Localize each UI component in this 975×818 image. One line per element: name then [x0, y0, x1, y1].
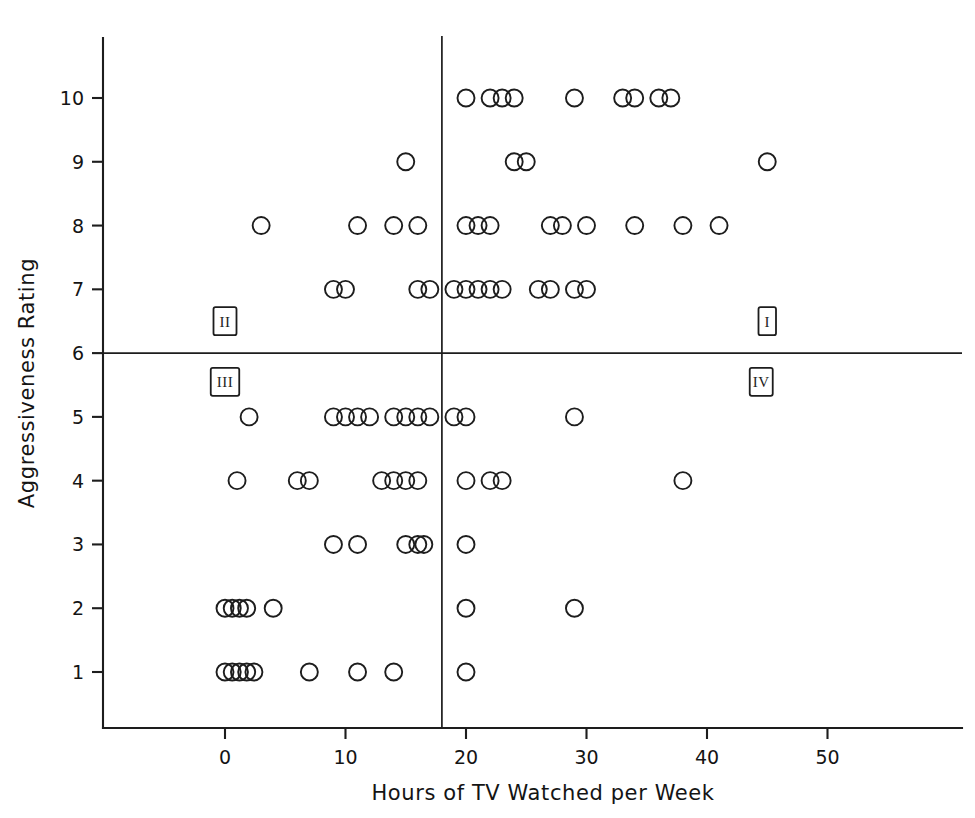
quadrant-label-iii: III [211, 368, 240, 396]
data-point [506, 90, 523, 107]
quadrant-label-text: IV [753, 374, 770, 390]
data-point [458, 600, 475, 617]
data-point [421, 408, 438, 425]
quadrant-label-ii: II [214, 307, 237, 335]
data-point [674, 217, 691, 234]
data-point [265, 600, 282, 617]
quadrant-label-iv: IV [750, 368, 773, 396]
data-point [301, 664, 318, 681]
axis-labels-group: Hours of TV Watched per WeekAggressivene… [15, 258, 715, 805]
quadrant-label-text: I [765, 314, 771, 330]
data-point [566, 408, 583, 425]
y-axis-tick-label: 8 [72, 215, 84, 237]
data-point [626, 90, 643, 107]
data-point [518, 153, 535, 170]
data-point [397, 153, 414, 170]
quadrant-label-text: III [217, 374, 234, 390]
data-point [711, 217, 728, 234]
x-axis-tick-label: 0 [219, 746, 231, 768]
data-point [409, 217, 426, 234]
data-point [494, 281, 511, 298]
plot-canvas: 1234567891001020304050 IIIIIIIV Hours of… [0, 0, 975, 818]
data-point [325, 536, 342, 553]
x-axis-tick-label: 10 [333, 746, 357, 768]
data-point [458, 472, 475, 489]
data-point [554, 217, 571, 234]
x-axis-tick-label: 20 [454, 746, 478, 768]
data-point [385, 664, 402, 681]
x-axis-tick-label: 50 [815, 746, 839, 768]
quadrant-label-i: I [759, 307, 777, 335]
data-point [349, 217, 366, 234]
data-point [349, 664, 366, 681]
x-axis-title: Hours of TV Watched per Week [371, 781, 714, 805]
data-point [662, 90, 679, 107]
data-point [409, 472, 426, 489]
data-point [494, 472, 511, 489]
y-axis-tick-label: 2 [72, 597, 84, 619]
y-axis-title: Aggressiveness Rating [15, 258, 39, 508]
data-point [458, 536, 475, 553]
data-point [458, 90, 475, 107]
data-point [578, 281, 595, 298]
y-axis-tick-label: 9 [72, 151, 84, 173]
x-axis-tick-label: 30 [574, 746, 598, 768]
y-axis-tick-label: 10 [60, 87, 84, 109]
data-point [385, 217, 402, 234]
data-point [301, 472, 318, 489]
y-axis-tick-label: 6 [72, 342, 84, 364]
y-axis-tick-label: 7 [72, 278, 84, 300]
scatter-plot-figure: 1234567891001020304050 IIIIIIIV Hours of… [0, 0, 975, 818]
data-point [458, 408, 475, 425]
data-point [626, 217, 643, 234]
data-point [458, 664, 475, 681]
data-point [674, 472, 691, 489]
data-point [542, 281, 559, 298]
data-point [566, 90, 583, 107]
data-point [578, 217, 595, 234]
data-point [229, 472, 246, 489]
data-point [349, 536, 366, 553]
axes-group: 1234567891001020304050 [60, 38, 962, 768]
data-point [253, 217, 270, 234]
x-axis-tick-label: 40 [695, 746, 719, 768]
y-axis-tick-label: 5 [72, 406, 84, 428]
quadrant-labels-group: IIIIIIIV [211, 307, 776, 396]
data-point [361, 408, 378, 425]
data-point [337, 281, 354, 298]
data-point [759, 153, 776, 170]
data-point [421, 281, 438, 298]
y-axis-tick-label: 1 [72, 661, 84, 683]
data-point [241, 408, 258, 425]
data-points-group [217, 90, 776, 681]
quadrant-label-text: II [220, 314, 231, 330]
y-axis-tick-label: 3 [72, 533, 84, 555]
data-point [482, 217, 499, 234]
y-axis-tick-label: 4 [72, 470, 84, 492]
data-point [566, 600, 583, 617]
